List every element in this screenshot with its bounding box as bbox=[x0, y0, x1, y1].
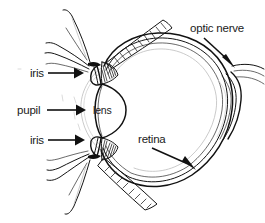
label-optic-nerve-text: optic nerve bbox=[190, 22, 244, 34]
label-iris-bottom-text: iris bbox=[30, 134, 44, 146]
label-iris-top-text: iris bbox=[30, 67, 44, 79]
label-lens: lens bbox=[93, 104, 111, 116]
eye-anatomy-diagram: iris pupil iris lens optic nerve r bbox=[0, 0, 265, 223]
eye-diagram-canvas: iris pupil iris lens optic nerve r bbox=[0, 0, 265, 223]
label-lens-text: lens bbox=[93, 104, 111, 116]
label-retina-text: retina bbox=[138, 133, 166, 145]
label-pupil-text: pupil bbox=[17, 104, 40, 116]
